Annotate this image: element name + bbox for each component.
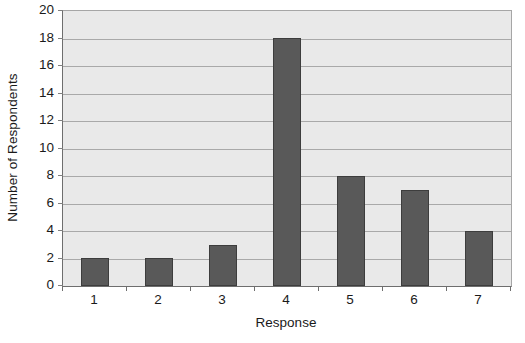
bar-slot	[383, 11, 447, 286]
y-axis-tick-label: 20	[39, 3, 54, 17]
x-axis-tick-label: 1	[90, 292, 98, 307]
y-axis-tick-label: 6	[46, 196, 54, 210]
x-axis-tick-mark	[190, 286, 191, 291]
bar[interactable]	[209, 245, 237, 286]
y-axis-tick-label: 14	[39, 86, 54, 100]
x-axis-tick-mark	[382, 286, 383, 291]
bar-slot	[63, 11, 127, 286]
bar[interactable]	[145, 258, 173, 286]
bar-chart: Number of Respondents 02468101214161820 …	[0, 0, 525, 343]
x-axis-tick-mark	[62, 286, 63, 291]
x-axis-tick-mark	[446, 286, 447, 291]
y-axis-tick-label: 0	[46, 278, 54, 292]
y-axis-tick-label: 18	[39, 31, 54, 45]
y-axis-tick-labels: 02468101214161820	[24, 0, 58, 295]
y-axis-tick-mark	[58, 93, 63, 94]
bar[interactable]	[337, 176, 365, 286]
y-axis-title: Number of Respondents	[0, 0, 24, 295]
x-axis-tick-mark	[126, 286, 127, 291]
x-axis-tick-label: 5	[346, 292, 354, 307]
x-axis-tick-label: 4	[282, 292, 290, 307]
y-axis-tick-mark	[58, 230, 63, 231]
bar[interactable]	[81, 258, 109, 286]
x-axis-tick-labels: 1234567	[62, 292, 510, 312]
y-axis-tick-mark	[58, 38, 63, 39]
bar[interactable]	[465, 231, 493, 286]
y-axis-tick-mark	[58, 175, 63, 176]
x-axis-tick-label: 6	[410, 292, 418, 307]
bar-slot	[447, 11, 511, 286]
y-axis-tick-mark	[58, 10, 63, 11]
x-axis-tick-mark	[510, 286, 511, 291]
y-axis-tick-label: 16	[39, 58, 54, 72]
bar[interactable]	[401, 190, 429, 286]
y-axis-tick-mark	[58, 258, 63, 259]
y-axis-tick-label: 10	[39, 141, 54, 155]
bar[interactable]	[273, 38, 301, 286]
y-axis-title-text: Number of Respondents	[5, 73, 20, 221]
y-axis-tick-label: 12	[39, 113, 54, 127]
plot-area	[62, 10, 512, 287]
y-axis-tick-mark	[58, 285, 63, 286]
y-axis-tick-mark	[58, 148, 63, 149]
y-axis-tick-mark	[58, 203, 63, 204]
x-axis-tick-label: 7	[474, 292, 482, 307]
y-axis-tick-label: 8	[46, 168, 54, 182]
y-axis-tick-label: 4	[46, 223, 54, 237]
bar-slot	[319, 11, 383, 286]
bar-slot	[127, 11, 191, 286]
x-axis-tick-label: 2	[154, 292, 162, 307]
y-axis-tick-mark	[58, 120, 63, 121]
bars-layer	[63, 11, 511, 286]
y-axis-tick-label: 2	[46, 251, 54, 265]
y-axis-tick-mark	[58, 65, 63, 66]
x-axis-tick-mark	[318, 286, 319, 291]
x-axis-tick-mark	[254, 286, 255, 291]
bar-slot	[255, 11, 319, 286]
bar-slot	[191, 11, 255, 286]
x-axis-title: Response	[62, 315, 510, 330]
x-axis-tick-label: 3	[218, 292, 226, 307]
